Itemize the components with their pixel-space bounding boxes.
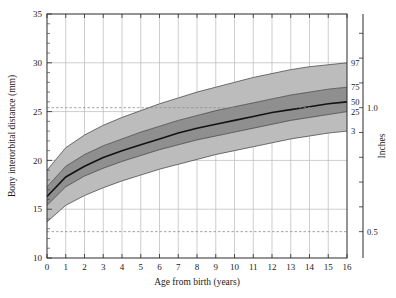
x-tick-label: 5 — [139, 262, 144, 272]
inches-tick-label: 1.0 — [367, 103, 378, 113]
percentile-label-3: 3 — [351, 126, 355, 136]
x-tick-label: 11 — [249, 262, 258, 272]
percentile-labels: 977550253 — [351, 58, 360, 136]
secondary-axis-inches: 1.00.5 — [359, 14, 378, 258]
x-tick-label: 7 — [176, 262, 181, 272]
y-tick-label: 20 — [33, 156, 43, 166]
x-tick-label: 3 — [101, 262, 106, 272]
percentile-label-50: 50 — [351, 97, 360, 107]
x-tick-label: 14 — [305, 262, 315, 272]
percentile-label-25: 25 — [351, 107, 360, 117]
y-tick-label: 35 — [33, 9, 43, 19]
x-tick-label: 12 — [268, 262, 277, 272]
y-axis-title: Bony interorbital distance (mm) — [7, 75, 18, 197]
y-tick-label: 30 — [33, 58, 43, 68]
x-tick-label: 10 — [230, 262, 240, 272]
x-axis-title: Age from birth (years) — [154, 277, 240, 288]
y-tick-label: 25 — [33, 107, 43, 117]
chart-canvas: 012345678910111213141516 101520253035 1.… — [0, 0, 396, 298]
x-tick-label: 13 — [286, 262, 296, 272]
y-tick-label: 15 — [33, 204, 43, 214]
percentile-label-75: 75 — [351, 82, 360, 92]
y-tick-label: 10 — [33, 253, 43, 263]
x-tick-label: 0 — [45, 262, 50, 272]
inches-tick-label: 0.5 — [367, 227, 378, 237]
y-axis-ticks: 101520253035 — [33, 9, 52, 263]
secondary-axis-title: Inches — [377, 133, 387, 158]
x-tick-label: 8 — [195, 262, 200, 272]
x-tick-label: 4 — [120, 262, 125, 272]
x-tick-label: 16 — [343, 262, 353, 272]
percentile-label-97: 97 — [351, 58, 360, 68]
x-tick-label: 1 — [64, 262, 69, 272]
growth-chart-figure: 012345678910111213141516 101520253035 1.… — [0, 0, 396, 298]
x-tick-label: 9 — [214, 262, 219, 272]
x-tick-label: 15 — [324, 262, 334, 272]
x-tick-label: 6 — [157, 262, 162, 272]
x-tick-label: 2 — [82, 262, 87, 272]
